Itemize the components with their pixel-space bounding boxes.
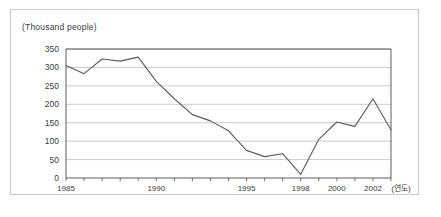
- x-tick-label: 2000: [328, 184, 346, 193]
- x-tick-label: 1985: [57, 184, 75, 193]
- y-tick-label: 200: [45, 99, 59, 109]
- y-tick-labels-group: 050100150200250300350: [45, 44, 59, 183]
- y-tick-label: 0: [54, 173, 59, 183]
- x-tick-label: 2002: [364, 184, 382, 193]
- y-tick-label: 250: [45, 81, 59, 91]
- data-series-line: [66, 57, 391, 174]
- y-tick-label: 100: [45, 136, 59, 146]
- gridlines-group: [66, 49, 391, 160]
- y-tick-label: 150: [45, 118, 59, 128]
- axis-lines-group: [66, 49, 391, 178]
- x-axis-title: (연도): [391, 184, 411, 193]
- y-tick-label: 50: [50, 155, 60, 165]
- chart-plot-area: 050100150200250300350 198519901995199820…: [0, 0, 441, 217]
- x-tick-labels-group: 198519901995199820002002: [57, 184, 382, 193]
- x-tick-label: 1995: [238, 184, 256, 193]
- y-tick-label: 350: [45, 44, 59, 54]
- x-tick-label: 1990: [147, 184, 165, 193]
- y-tick-label: 300: [45, 62, 59, 72]
- line-chart-svg: 050100150200250300350 198519901995199820…: [0, 0, 441, 217]
- x-tick-label: 1998: [292, 184, 310, 193]
